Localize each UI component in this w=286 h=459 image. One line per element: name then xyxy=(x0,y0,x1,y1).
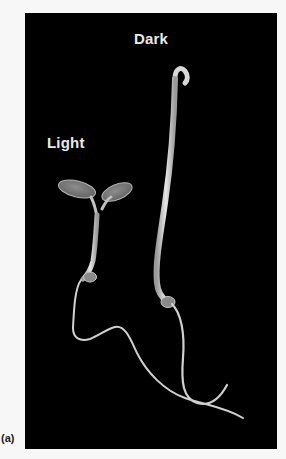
dark-label: Dark xyxy=(134,30,168,47)
seedlings-illustration xyxy=(25,13,277,449)
photo-panel xyxy=(25,13,277,449)
dark-seedling xyxy=(157,69,227,404)
light-label: Light xyxy=(47,134,85,151)
figure-panel-label: (a) xyxy=(1,432,14,444)
light-seedling xyxy=(57,177,243,418)
